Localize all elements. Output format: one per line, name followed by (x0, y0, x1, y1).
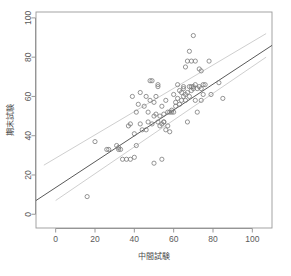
figure-container: 020406080100 020406080100 中間試験 期末試験 (0, 0, 291, 276)
data-point (176, 96, 180, 100)
data-point (185, 120, 189, 124)
data-point (193, 98, 197, 102)
data-point (138, 122, 142, 126)
data-point (85, 194, 89, 198)
data-point (93, 140, 97, 144)
data-point (152, 100, 156, 104)
plot-box (36, 12, 272, 228)
y-tick-label: 100 (23, 11, 33, 25)
plot-frame (36, 12, 272, 228)
data-points (85, 33, 225, 198)
lower-band (56, 57, 266, 200)
x-tick-label: 0 (53, 234, 58, 244)
y-tick-label: 0 (23, 212, 33, 217)
confidence-bands (44, 34, 266, 201)
y-tick-label: 20 (23, 170, 33, 180)
data-point (132, 155, 136, 159)
data-point (164, 98, 168, 102)
x-tick-label: 80 (208, 234, 218, 244)
data-point (201, 92, 205, 96)
data-point (207, 59, 211, 63)
x-axis-title: 中間試験 (138, 251, 170, 261)
y-tick-label: 40 (23, 131, 33, 141)
data-point (164, 128, 168, 132)
data-point (136, 102, 140, 106)
data-point (172, 92, 176, 96)
scatter-plot: 020406080100 020406080100 中間試験 期末試験 (0, 0, 291, 276)
data-point (183, 65, 187, 69)
y-axis-ticks: 020406080100 (23, 11, 36, 217)
data-point (160, 104, 164, 108)
x-tick-label: 100 (245, 234, 259, 244)
x-tick-label: 60 (169, 234, 179, 244)
data-point (195, 110, 199, 114)
data-point (158, 114, 162, 118)
data-point (152, 161, 156, 165)
data-point (162, 112, 166, 116)
y-axis-title: 期末試験 (5, 104, 15, 136)
data-point (191, 33, 195, 37)
data-point (146, 120, 150, 124)
data-point (217, 81, 221, 85)
data-point (130, 94, 134, 98)
data-point (221, 96, 225, 100)
data-point (187, 49, 191, 53)
y-tick-label: 60 (23, 91, 33, 101)
y-tick-label: 80 (23, 52, 33, 62)
data-point (154, 94, 158, 98)
data-point (146, 110, 150, 114)
data-point (138, 90, 142, 94)
data-point (160, 157, 164, 161)
upper-band (44, 34, 266, 166)
data-point (187, 94, 191, 98)
x-tick-label: 40 (130, 234, 140, 244)
data-point (144, 94, 148, 98)
data-point (132, 132, 136, 136)
data-point (168, 130, 172, 134)
x-axis-ticks: 020406080100 (53, 229, 259, 245)
x-tick-label: 20 (90, 234, 100, 244)
